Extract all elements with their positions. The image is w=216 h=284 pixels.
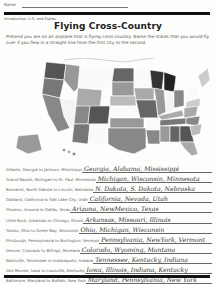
route-answer[interactable]: Colorado, Wyoming, Montana xyxy=(80,246,212,254)
route-row: Atlanta, Georgia to Jackson, Mississippi… xyxy=(6,163,212,173)
top-divider xyxy=(4,12,210,15)
route-answer[interactable]: Pennsylvania, NewYork, Vermont xyxy=(99,236,212,244)
us-map-icon xyxy=(14,58,210,156)
bottom-divider xyxy=(4,275,210,278)
route-answer[interactable]: Ohio, Michigan, Wisconsin xyxy=(79,226,212,234)
route-answer[interactable]: Arkansas, Missouri, Illinois xyxy=(83,216,212,224)
route-row: Oakland, California to Salt Lake City, U… xyxy=(6,193,212,203)
route-answer[interactable]: Michigan, Wisconsin, Minnesota xyxy=(96,175,212,183)
route-answer[interactable]: California, Nevada, Utah xyxy=(88,195,212,203)
route-row: Nashville, Tennessee to Indianapolis, In… xyxy=(6,254,212,264)
route-answer[interactable]: N. Dakota, S. Dakota, Nebraska xyxy=(93,185,212,193)
instructions: Pretend you are on an airplane that is f… xyxy=(6,34,210,46)
name-field[interactable] xyxy=(22,7,128,8)
route-row: Pittsburgh, Pennsylvania to Burlington, … xyxy=(6,234,212,244)
route-row: Des Moines, Iowa to Louisville, Kentucky… xyxy=(6,264,212,274)
route-row: Bismarck, North Dakota to Lincoln, Nebra… xyxy=(6,183,212,193)
route-row: Phoenix, Arizona to Dallas, TexasArizona… xyxy=(6,203,212,213)
route-list: Atlanta, Georgia to Jackson, Mississippi… xyxy=(6,163,212,284)
route-answer[interactable]: Iowa, Illinois, Indiana, Kentucky xyxy=(85,266,212,274)
route-row: Grand Rapids, Michigan to St. Paul, Minn… xyxy=(6,173,212,183)
route-answer[interactable]: Tennessee, Kentucky, Indiana xyxy=(93,256,212,264)
route-question: Baltimore, Maryland to Buffalo, New York xyxy=(6,278,86,284)
route-row: Denver, Colorado to Billings, MontanaCol… xyxy=(6,244,212,254)
route-row: Little Rock, Arkansas to Chicago, Illino… xyxy=(6,213,212,223)
route-answer[interactable]: Arizona, NewMexico, Texas xyxy=(70,205,212,213)
route-answer[interactable]: Georgia, Alabama, Mississippi xyxy=(82,165,212,173)
page-title: Flying Cross-Country xyxy=(0,21,216,31)
name-label: Name xyxy=(4,2,16,7)
route-row: Toledo, Ohio to Green Bay, WisconsinOhio… xyxy=(6,224,212,234)
